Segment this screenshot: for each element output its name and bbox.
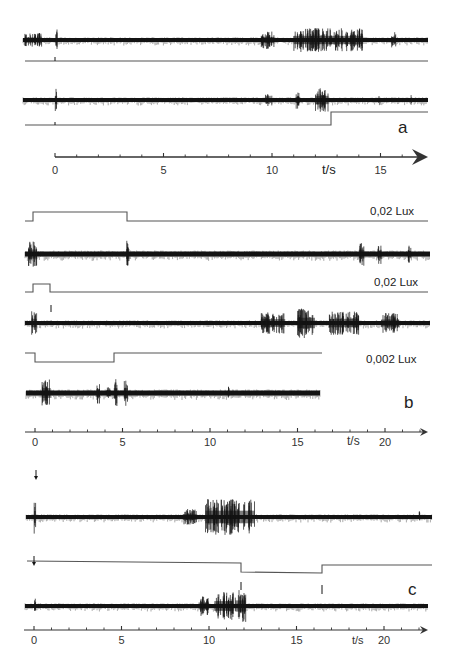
- axis-unit-b: t/s: [347, 434, 360, 448]
- tick-label-b-15: 15: [292, 436, 304, 448]
- stimulus-intensity-label-1: 0,02 Lux: [370, 205, 414, 217]
- stimulus-trace: [27, 561, 432, 573]
- stimulus-intensity-label-3: 0,002 Lux: [366, 353, 417, 365]
- axis-unit-c: t/s: [352, 634, 364, 646]
- tick-label-c-15: 15: [291, 634, 303, 646]
- tick-label-c-0: 0: [31, 634, 37, 646]
- axis-unit-a: t/s: [322, 162, 336, 177]
- stimulus-onset-arrowhead-icon: [34, 476, 38, 480]
- tick-label-b-0: 0: [32, 436, 38, 448]
- stimulus-intensity-label-2: 0,02 Lux: [374, 276, 418, 288]
- stimulus-onset-arrowhead-icon: [32, 562, 36, 566]
- figure-canvas: [0, 0, 455, 672]
- tick-label-b-5: 5: [120, 436, 126, 448]
- panel-a: [23, 28, 428, 165]
- tick-label-a-5: 5: [161, 164, 167, 176]
- tick-label-a-0: 0: [52, 164, 58, 176]
- tick-label-c-10: 10: [203, 634, 215, 646]
- tick-label-a-15: 15: [375, 164, 387, 176]
- panel-b: [25, 212, 430, 436]
- panel-label-b: b: [404, 393, 413, 413]
- stimulus-trace: [25, 353, 322, 362]
- stimulus-trace: [25, 112, 428, 125]
- panel-label-a: a: [398, 118, 407, 138]
- tick-label-b-10: 10: [204, 436, 216, 448]
- tick-label-b-20: 20: [379, 436, 391, 448]
- stimulus-trace: [25, 212, 428, 221]
- panel-label-c: c: [408, 580, 417, 600]
- tick-label-a-10: 10: [266, 164, 278, 176]
- burst-envelope: [382, 320, 400, 327]
- tick-label-c-20: 20: [378, 634, 390, 646]
- tick-label-c-5: 5: [119, 634, 125, 646]
- stimulus-trace: [25, 284, 428, 292]
- panel-c: [24, 470, 432, 634]
